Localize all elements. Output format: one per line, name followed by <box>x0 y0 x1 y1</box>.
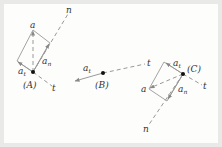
point-b-dot <box>101 71 105 75</box>
a-label-an: an <box>42 56 51 67</box>
point-b-label: (B) <box>95 80 109 90</box>
point-a-label: (A) <box>23 80 37 90</box>
b-label-at: at <box>83 63 91 74</box>
point-c-group: at (C) a an t n <box>141 58 207 134</box>
point-a-group: a n t an at (A) <box>17 5 72 93</box>
point-b-group: at t (B) <box>75 58 151 90</box>
point-c-dot <box>181 72 185 76</box>
a-label-at: at <box>18 66 26 77</box>
c-label-an: an <box>178 84 187 95</box>
b-label-t: t <box>147 58 151 68</box>
c-label-a: a <box>141 84 146 94</box>
a-label-t: t <box>52 83 56 93</box>
a-label-a: a <box>30 20 35 30</box>
acceleration-diagram: a n t an at (A) at t (B) at (C) a an t n <box>0 0 222 147</box>
point-a-dot <box>31 70 35 74</box>
point-c-label: (C) <box>187 64 201 74</box>
b-t-axis <box>103 64 145 73</box>
c-label-t: t <box>203 81 207 91</box>
c-label-n: n <box>143 124 149 134</box>
a-label-n: n <box>66 5 72 15</box>
c-t-axis <box>183 74 202 85</box>
c-label-at: at <box>173 58 181 69</box>
